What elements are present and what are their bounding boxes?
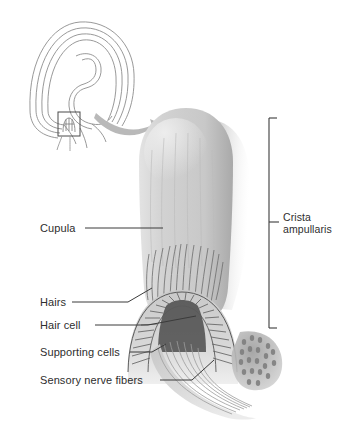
label-hairs: Hairs bbox=[40, 296, 66, 308]
label-crista-ampullaris: Crista ampullaris bbox=[283, 212, 338, 235]
label-crista-line1: Crista bbox=[283, 211, 311, 223]
label-crista-line2: ampullaris bbox=[283, 223, 332, 235]
crista-ampullaris-figure: Cupula Hairs Hair cell Supporting cells … bbox=[0, 0, 338, 432]
supporting-cell-cluster bbox=[232, 331, 283, 390]
crista-ampullaris-bracket bbox=[269, 118, 279, 328]
label-cupula: Cupula bbox=[40, 222, 75, 234]
label-sensory-nerve-fibers: Sensory nerve fibers bbox=[40, 374, 143, 386]
label-supporting-cells: Supporting cells bbox=[40, 346, 120, 358]
label-hair-cell: Hair cell bbox=[40, 319, 81, 331]
